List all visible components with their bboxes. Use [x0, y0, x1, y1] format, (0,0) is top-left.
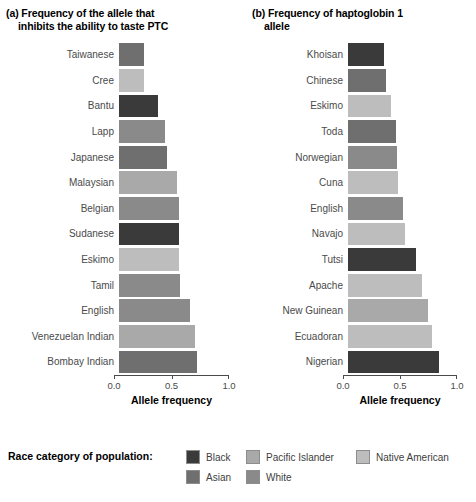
bar — [119, 69, 144, 92]
bar-track — [119, 196, 238, 222]
legend: Race category of population: BlackAsianP… — [0, 440, 476, 502]
panel-a-title-line1: (a) Frequency of the allele that — [6, 7, 155, 19]
bar-category-label: Japanese — [0, 152, 119, 163]
legend-item: Native American — [356, 450, 449, 464]
x-axis-tick-label: 1.0 — [450, 380, 463, 391]
bar-row: Apache — [238, 272, 476, 298]
bar — [348, 43, 384, 66]
bar-rows: KhoisanChineseEskimoTodaNorwegianCunaEng… — [238, 42, 476, 375]
x-axis-tick — [456, 375, 457, 379]
bar-category-label: Chinese — [238, 75, 348, 86]
bar-row: Ecuadoran — [238, 324, 476, 350]
bar — [119, 120, 165, 143]
panel-b-plot: KhoisanChineseEskimoTodaNorwegianCunaEng… — [238, 42, 476, 376]
bar-track — [348, 324, 476, 350]
bar — [119, 197, 179, 220]
bar-row: Eskimo — [0, 247, 238, 273]
bar-category-label: Eskimo — [238, 100, 348, 111]
bar-row: Venezuelan Indian — [0, 324, 238, 350]
legend-label: White — [266, 472, 292, 483]
x-axis-tick-label: 0.5 — [165, 380, 178, 391]
bar-track — [119, 170, 238, 196]
bar-category-label: New Guinean — [238, 305, 348, 316]
legend-item: Asian — [186, 470, 231, 484]
x-axis-tick-label: 0.0 — [107, 380, 120, 391]
bar-category-label: Venezuelan Indian — [0, 331, 119, 342]
figure-root: (a) Frequency of the allele that inhibit… — [0, 0, 476, 502]
bar-category-label: Toda — [238, 126, 348, 137]
bar-track — [119, 42, 238, 68]
legend-label: Pacific Islander — [266, 452, 334, 463]
bar-row: Cree — [0, 68, 238, 94]
panel-b-title: (b) Frequency of haptoglobin 1 allele — [238, 0, 476, 33]
bar-row: Chinese — [238, 68, 476, 94]
bar-track — [348, 349, 476, 375]
bar-row: Tutsi — [238, 247, 476, 273]
bar-track — [119, 119, 238, 145]
bar — [348, 95, 391, 118]
legend-item: Pacific Islander — [246, 450, 334, 464]
legend-label: Asian — [206, 472, 231, 483]
bar — [348, 325, 432, 348]
bar-track — [119, 68, 238, 94]
bar — [119, 95, 158, 118]
x-axis-tick — [172, 375, 173, 379]
bar-track — [348, 170, 476, 196]
bar-track — [348, 247, 476, 273]
bar-row: Norwegian — [238, 144, 476, 170]
bar — [348, 171, 398, 194]
bar-category-label: Tamil — [0, 280, 119, 291]
bar — [348, 197, 403, 220]
panel-a-plot: TaiwaneseCreeBantuLappJapaneseMalaysianB… — [0, 42, 238, 376]
panel-b-title-line2: allele — [252, 20, 470, 33]
bar — [119, 248, 179, 271]
bar-track — [348, 221, 476, 247]
bar — [119, 171, 177, 194]
bar-category-label: Bantu — [0, 100, 119, 111]
bar-row: Nigerian — [238, 349, 476, 375]
bar-row: Navajo — [238, 221, 476, 247]
bar-row: Taiwanese — [0, 42, 238, 68]
bar-row: Malaysian — [0, 170, 238, 196]
x-axis-tick-label: 1.0 — [222, 380, 235, 391]
x-axis: 0.00.51.0 — [343, 375, 457, 376]
x-axis-tick — [114, 375, 115, 379]
bar — [119, 146, 167, 169]
bar-category-label: Cree — [0, 75, 119, 86]
bar — [348, 120, 396, 143]
bar — [348, 146, 397, 169]
panel-b: (b) Frequency of haptoglobin 1 allele Kh… — [238, 0, 476, 432]
bar-row: Toda — [238, 119, 476, 145]
bar-category-label: Eskimo — [0, 254, 119, 265]
bar-row: Cuna — [238, 170, 476, 196]
bar-track — [348, 298, 476, 324]
bar-row: Japanese — [0, 144, 238, 170]
legend-swatch — [186, 470, 200, 484]
panel-a-title: (a) Frequency of the allele that inhibit… — [0, 0, 238, 33]
bar-category-label: Malaysian — [0, 177, 119, 188]
bar-track — [348, 196, 476, 222]
legend-label: Black — [206, 452, 230, 463]
legend-swatch — [186, 450, 200, 464]
bar — [119, 274, 180, 297]
bar-track — [119, 272, 238, 298]
bar-category-label: Lapp — [0, 126, 119, 137]
bar-rows: TaiwaneseCreeBantuLappJapaneseMalaysianB… — [0, 42, 238, 375]
x-axis-title: Allele frequency — [359, 394, 440, 406]
bar-row: Tamil — [0, 272, 238, 298]
legend-title: Race category of population: — [8, 450, 153, 462]
bar — [348, 69, 386, 92]
panel-a-title-line2: inhibits the ability to taste PTC — [6, 20, 232, 33]
bar-row: Khoisan — [238, 42, 476, 68]
bar-category-label: Apache — [238, 280, 348, 291]
bar-category-label: Bombay Indian — [0, 356, 119, 367]
bar-row: Sudanese — [0, 221, 238, 247]
bar-category-label: English — [238, 203, 348, 214]
legend-item: Black — [186, 450, 230, 464]
bar-category-label: Nigerian — [238, 356, 348, 367]
bar-category-label: Belgian — [0, 203, 119, 214]
bar — [119, 299, 190, 322]
legend-item: White — [246, 470, 292, 484]
bar-category-label: Norwegian — [238, 152, 348, 163]
x-axis-title: Allele frequency — [131, 394, 212, 406]
